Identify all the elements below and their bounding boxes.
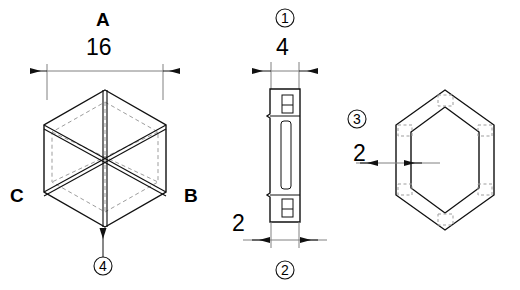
iso-dimension-16 xyxy=(30,64,180,100)
side-slot-features xyxy=(281,95,293,217)
front-vertex-detail-bottom xyxy=(438,214,453,225)
iso-hidden-lines xyxy=(52,102,158,212)
side-dimension-2 xyxy=(243,222,327,248)
front-inner-hex xyxy=(411,107,479,213)
front-vertex-hidden-details xyxy=(398,95,492,225)
balloon-4-number: 4 xyxy=(99,259,107,273)
balloon-1-number: 1 xyxy=(281,11,289,25)
side-slot-middle xyxy=(281,121,291,189)
side-dimension-value-4: 4 xyxy=(276,36,289,59)
front-vertex-detail-top-right xyxy=(478,125,492,136)
side-slot-bottom xyxy=(282,199,293,217)
balloon-2-number: 2 xyxy=(281,263,289,277)
face-label-b: B xyxy=(184,186,198,205)
side-slot-top xyxy=(282,95,293,113)
face-label-c: C xyxy=(10,186,24,205)
front-vertex-detail-bottom-left xyxy=(398,184,412,195)
technical-drawing-svg xyxy=(0,0,520,290)
side-dimension-4 xyxy=(252,62,318,92)
side-dimension-value-2: 2 xyxy=(232,212,245,235)
front-vertex-detail-bottom-right xyxy=(478,184,492,195)
drawing-canvas: A B C 16 4 2 2 1 2 3 4 xyxy=(0,0,520,290)
face-label-a: A xyxy=(96,10,110,29)
front-vertex-detail-top xyxy=(438,95,453,106)
front-hex-ring xyxy=(396,90,494,230)
iso-dimension-value-16: 16 xyxy=(86,36,112,59)
balloon-3-number: 3 xyxy=(353,112,361,126)
front-dimension-value-2: 2 xyxy=(353,142,366,165)
front-vertex-detail-top-left xyxy=(398,125,412,136)
